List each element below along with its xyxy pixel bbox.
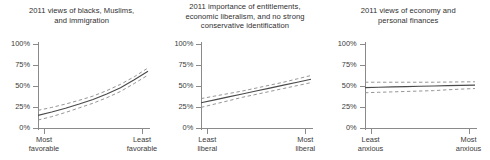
panel-1-x-axis — [38, 128, 150, 129]
panel-2-title: 2011 importance of entitlements, economi… — [163, 2, 326, 31]
panel-1-ylabel-75: 75% — [15, 60, 30, 70]
panel-3-ylabel-0: 0% — [346, 123, 357, 133]
panel-1-xtick-left — [44, 129, 45, 134]
panel-3-xlabel-left: Least anxious — [344, 135, 398, 154]
panel-1-ylabel-25: 25% — [15, 102, 30, 112]
panel-3-ylabel-100: 100% — [338, 39, 357, 49]
panel-3-ci-lower — [365, 89, 475, 93]
panel-1-title: 2011 views of blacks, Muslims, and immig… — [0, 6, 163, 25]
panel-3-xlabel-right: Most anxious — [442, 135, 490, 154]
panel-2-xtick-right — [305, 129, 306, 134]
panel-1-xlabel-right: Least favorable — [115, 135, 169, 154]
panel-2-xlabel-left: Least liberal — [180, 135, 234, 154]
panel-2-ylabel-25: 25% — [179, 102, 194, 112]
panel-1-ytick-0: 0% — [33, 128, 38, 129]
panel-2-lines — [201, 44, 311, 128]
panel-2-ylabel-50: 50% — [179, 81, 194, 91]
panel-2-ci-lower — [201, 83, 311, 108]
panel-3-xtick-right — [469, 129, 470, 134]
panel-3-ylabel-75: 75% — [342, 60, 357, 70]
figure-panel-row: 2011 views of blacks, Muslims, and immig… — [0, 0, 490, 160]
panel-1-xtick-right — [142, 129, 143, 134]
panel-3-lines — [365, 44, 475, 128]
chart-panel-1: 2011 views of blacks, Muslims, and immig… — [0, 0, 163, 160]
panel-1-ylabel-0: 0% — [19, 123, 30, 133]
panel-1-ci-upper — [38, 68, 148, 110]
panel-3-ytick-0: 0% — [360, 128, 365, 129]
panel-2-plot-area — [201, 44, 311, 128]
panel-1-lines — [38, 44, 148, 128]
panel-1-xlabel-left: Most favorable — [17, 135, 71, 154]
panel-2-ylabel-75: 75% — [179, 60, 194, 70]
panel-1-plot-area — [38, 44, 148, 128]
panel-2-mean — [201, 79, 311, 103]
panel-3-mean — [365, 85, 475, 88]
panel-2-ylabel-0: 0% — [183, 123, 194, 133]
panel-3-title: 2011 views of economy and personal finan… — [327, 6, 490, 25]
panel-1-mean — [38, 71, 148, 115]
panel-3-xtick-left — [371, 129, 372, 134]
panel-2-xtick-left — [207, 129, 208, 134]
panel-3-ylabel-25: 25% — [342, 102, 357, 112]
panel-2-xlabel-right: Most liberal — [278, 135, 332, 154]
panel-3-plot-area — [365, 44, 475, 128]
panel-2-x-axis — [201, 128, 313, 129]
panel-3-ylabel-50: 50% — [342, 81, 357, 91]
panel-2-ylabel-100: 100% — [174, 39, 193, 49]
panel-1-ylabel-100: 100% — [11, 39, 30, 49]
panel-3-x-axis — [365, 128, 477, 129]
panel-2-ci-upper — [201, 76, 311, 99]
panel-1-ylabel-50: 50% — [15, 81, 30, 91]
chart-panel-3: 2011 views of economy and personal finan… — [327, 0, 490, 160]
chart-panel-2: 2011 importance of entitlements, economi… — [163, 0, 326, 160]
panel-2-ytick-0: 0% — [196, 128, 201, 129]
